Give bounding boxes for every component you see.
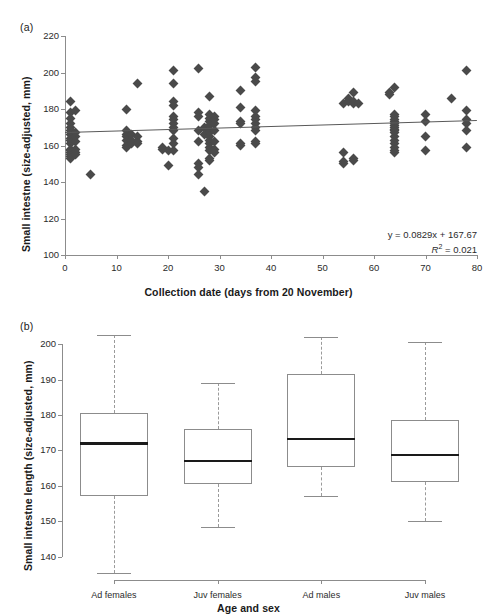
panel-a-x-tick-label: 70 (406, 262, 446, 273)
panel-b-x-tick (114, 580, 115, 584)
scatter-point (204, 91, 214, 101)
panel-a-y-tick (61, 182, 65, 183)
boxplot-whisker-lower (425, 482, 426, 521)
panel-b-x-tick (425, 580, 426, 584)
panel-a-x-tick-label: 30 (200, 262, 240, 273)
regression-r-squared: R2 = 0.021 (217, 241, 477, 256)
panel-b-y-tick (58, 450, 62, 451)
panel-b-x-tick (321, 580, 322, 584)
boxplot-cap-upper (201, 383, 235, 384)
panel-a-regression-annotation: y = 0.0829x + 167.67 R2 = 0.021 (217, 229, 477, 256)
scatter-point (132, 78, 142, 88)
panel-b-x-tick (218, 580, 219, 584)
scatter-point (251, 62, 261, 72)
panel-a-y-tick (61, 219, 65, 220)
boxplot-whisker-upper (114, 335, 115, 413)
panel-b-y-tick-label: 200 (20, 338, 56, 349)
panel-a-y-tick (61, 73, 65, 74)
panel-b-y-tick (58, 415, 62, 416)
panel-a-y-tick-label: 140 (23, 176, 59, 187)
panel-b-plot-area: 140150160170180190200Ad femalesJuv femal… (62, 330, 477, 578)
panel-a-x-tick-label: 60 (354, 262, 394, 273)
boxplot-cap-lower (201, 527, 235, 528)
scatter-point (462, 142, 472, 152)
scatter-point (446, 93, 456, 103)
scatter-point (199, 186, 209, 196)
panel-a-x-axis-title: Collection date (days from 20 November) (0, 286, 497, 298)
panel-a-scatter: (a) Small intestne (size-adjusted, mm) 1… (0, 0, 497, 310)
scatter-point (462, 126, 472, 136)
scatter-point (354, 99, 364, 109)
scatter-point (168, 78, 178, 88)
panel-b-y-tick (58, 557, 62, 558)
boxplot-box (184, 429, 252, 484)
boxplot-whisker-lower (218, 484, 219, 526)
boxplot-box (287, 374, 355, 467)
panel-b-boxplot: (b) Small intestne length (size-adjusted… (0, 306, 497, 616)
panel-b-label: (b) (20, 320, 33, 332)
boxplot-box (391, 420, 459, 481)
boxplot-cap-lower (97, 573, 131, 574)
panel-a-x-tick-label: 50 (303, 262, 343, 273)
boxplot-category-label: Juv males (373, 590, 477, 600)
scatter-point (86, 170, 96, 180)
boxplot-median (287, 438, 355, 440)
panel-a-y-tick-label: 220 (23, 30, 59, 41)
scatter-point (235, 102, 245, 112)
scatter-point (194, 64, 204, 74)
figure-container: (a) Small intestne (size-adjusted, mm) 1… (0, 0, 497, 616)
panel-a-y-tick-label: 100 (23, 249, 59, 260)
boxplot-whisker-upper (321, 337, 322, 374)
panel-b-y-tick-label: 180 (20, 409, 56, 420)
panel-a-x-tick-label: 20 (148, 262, 188, 273)
boxplot-median (184, 460, 252, 462)
boxplot-whisker-upper (218, 383, 219, 429)
panel-b-y-tick-label: 170 (20, 444, 56, 455)
panel-a-x-tick (168, 255, 169, 259)
scatter-point (122, 104, 132, 114)
scatter-point (194, 137, 204, 147)
panel-a-x-tick (117, 255, 118, 259)
boxplot-median (391, 454, 459, 456)
boxplot-cap-upper (408, 342, 442, 343)
scatter-point (65, 97, 75, 107)
boxplot-category-label: Juv females (166, 590, 270, 600)
panel-a-y-tick-label: 180 (23, 103, 59, 114)
panel-b-y-tick-label: 150 (20, 515, 56, 526)
panel-b-y-tick (58, 344, 62, 345)
scatter-point (421, 146, 431, 156)
panel-b-y-tick-label: 160 (20, 480, 56, 491)
boxplot-cap-lower (408, 521, 442, 522)
panel-a-x-tick-label: 80 (457, 262, 497, 273)
boxplot-median (80, 442, 148, 444)
panel-a-y-tick-label: 120 (23, 213, 59, 224)
panel-b-y-axis (62, 344, 63, 557)
scatter-point (168, 66, 178, 76)
figure-caption-clipped (0, 610, 497, 616)
panel-b-y-tick-label: 140 (20, 551, 56, 562)
panel-b-y-axis-title: Small intestne length (size-adjusted, mm… (22, 360, 34, 571)
scatter-point (168, 146, 178, 156)
r2-value: = 0.021 (442, 244, 477, 255)
boxplot-category-label: Ad females (62, 590, 166, 600)
boxplot-whisker-upper (425, 342, 426, 421)
regression-equation: y = 0.0829x + 167.67 (217, 229, 477, 241)
panel-a-x-tick-label: 0 (45, 262, 85, 273)
panel-b-y-tick-label: 190 (20, 374, 56, 385)
scatter-point (163, 161, 173, 171)
boxplot-box (80, 413, 148, 496)
scatter-point (235, 86, 245, 96)
panel-a-x-tick-label: 10 (97, 262, 137, 273)
scatter-point (194, 170, 204, 180)
boxplot-category-label: Ad males (270, 590, 374, 600)
panel-a-x-tick-label: 40 (251, 262, 291, 273)
boxplot-cap-upper (304, 337, 338, 338)
boxplot-whisker-lower (321, 467, 322, 496)
panel-a-y-tick-label: 160 (23, 140, 59, 151)
panel-a-y-tick (61, 36, 65, 37)
panel-b-x-axis (114, 580, 425, 581)
boxplot-whisker-lower (114, 496, 115, 573)
scatter-point (421, 131, 431, 141)
panel-a-y-axis (65, 36, 66, 255)
panel-b-y-tick (58, 521, 62, 522)
